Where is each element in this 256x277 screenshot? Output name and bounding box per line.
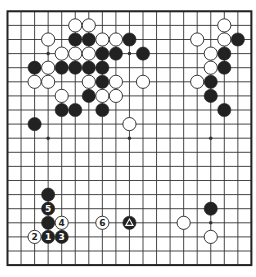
- white-stone-disc: [136, 75, 149, 88]
- black-stone[interactable]: [204, 202, 217, 215]
- black-stone[interactable]: [231, 33, 244, 46]
- black-stone[interactable]: [136, 47, 149, 60]
- black-stone[interactable]: [82, 61, 95, 74]
- white-stone-disc: [218, 33, 231, 46]
- white-stone[interactable]: [82, 47, 95, 60]
- white-stone[interactable]: [109, 75, 122, 88]
- white-stone-disc: [191, 75, 204, 88]
- white-stone[interactable]: [218, 33, 231, 46]
- black-stone-disc: [82, 89, 95, 102]
- star-point: [209, 221, 213, 225]
- white-stone[interactable]: [28, 75, 41, 88]
- white-stone-disc: [42, 75, 55, 88]
- black-stone-disc: [69, 33, 82, 46]
- black-stone[interactable]: [96, 47, 109, 60]
- black-stone[interactable]: [123, 33, 136, 46]
- white-stone[interactable]: [204, 47, 217, 60]
- white-stone[interactable]: [42, 33, 55, 46]
- black-stone[interactable]: [55, 61, 68, 74]
- white-stone[interactable]: [109, 89, 122, 102]
- black-stone-move-1[interactable]: 1: [42, 230, 55, 243]
- white-stone[interactable]: [218, 19, 231, 32]
- white-stone-disc: [82, 75, 95, 88]
- move-number-label: 2: [31, 232, 37, 242]
- black-stone[interactable]: [55, 103, 68, 116]
- white-stone-disc: [96, 33, 109, 46]
- black-stone[interactable]: [96, 61, 109, 74]
- star-point: [46, 52, 50, 56]
- star-point: [128, 136, 132, 140]
- move-number-label: 3: [59, 232, 65, 242]
- white-stone-disc: [55, 47, 68, 60]
- white-stone[interactable]: [69, 19, 82, 32]
- black-stone[interactable]: [204, 75, 217, 88]
- white-stone[interactable]: [204, 230, 217, 243]
- black-stone-disc: [42, 216, 55, 229]
- white-stone[interactable]: [96, 89, 109, 102]
- white-stone-disc: [204, 230, 217, 243]
- white-stone[interactable]: [42, 75, 55, 88]
- black-stone-disc: [55, 61, 68, 74]
- white-stone-move-6[interactable]: 6: [96, 216, 109, 229]
- black-stone[interactable]: [69, 33, 82, 46]
- black-stone-disc: [96, 47, 109, 60]
- black-stone-disc: [231, 33, 244, 46]
- black-stone[interactable]: [218, 103, 231, 116]
- white-stone[interactable]: [55, 89, 68, 102]
- black-stone[interactable]: [123, 216, 136, 229]
- white-stone[interactable]: [177, 216, 190, 229]
- black-stone-disc: [96, 61, 109, 74]
- black-stone-disc: [69, 61, 82, 74]
- black-stone-disc: [218, 47, 231, 60]
- black-stone[interactable]: [96, 103, 109, 116]
- white-stone[interactable]: [123, 118, 136, 131]
- black-stone[interactable]: [69, 103, 82, 116]
- move-number-label: 4: [59, 218, 65, 228]
- black-stone[interactable]: [109, 47, 122, 60]
- black-stone-disc: [204, 89, 217, 102]
- black-stone-disc: [82, 33, 95, 46]
- white-stone-disc: [109, 33, 122, 46]
- black-stone[interactable]: [82, 89, 95, 102]
- white-stone-disc: [191, 33, 204, 46]
- white-stone[interactable]: [82, 19, 95, 32]
- black-stone[interactable]: [69, 61, 82, 74]
- black-stone[interactable]: [96, 75, 109, 88]
- white-stone[interactable]: [109, 33, 122, 46]
- white-stone[interactable]: [191, 33, 204, 46]
- white-stone[interactable]: [42, 61, 55, 74]
- white-stone[interactable]: [204, 61, 217, 74]
- black-stone-disc: [28, 61, 41, 74]
- black-stone-disc: [82, 61, 95, 74]
- white-stone[interactable]: [136, 75, 149, 88]
- black-stone-disc: [109, 47, 122, 60]
- black-stone-move-3[interactable]: 3: [55, 230, 68, 243]
- black-stone[interactable]: [82, 33, 95, 46]
- white-stone-move-4[interactable]: 4: [55, 216, 68, 229]
- white-stone[interactable]: [96, 33, 109, 46]
- black-stone-disc: [96, 103, 109, 116]
- white-stone[interactable]: [55, 47, 68, 60]
- go-board: 546213: [0, 0, 256, 277]
- white-stone-disc: [69, 47, 82, 60]
- move-number-label: 5: [45, 204, 51, 214]
- white-stone-disc: [96, 89, 109, 102]
- black-stone[interactable]: [204, 89, 217, 102]
- black-stone[interactable]: [218, 61, 231, 74]
- white-stone-disc: [204, 61, 217, 74]
- black-stone[interactable]: [218, 47, 231, 60]
- black-stone-move-5[interactable]: 5: [42, 202, 55, 215]
- black-stone-disc: [28, 118, 41, 131]
- white-stone-move-2[interactable]: 2: [28, 230, 41, 243]
- white-stone[interactable]: [191, 75, 204, 88]
- black-stone[interactable]: [42, 188, 55, 201]
- black-stone[interactable]: [42, 216, 55, 229]
- white-stone[interactable]: [82, 75, 95, 88]
- black-stone-disc: [96, 75, 109, 88]
- black-stone-disc: [42, 188, 55, 201]
- black-stone-disc: [123, 33, 136, 46]
- black-stone[interactable]: [28, 61, 41, 74]
- black-stone-disc: [136, 47, 149, 60]
- white-stone[interactable]: [69, 47, 82, 60]
- black-stone[interactable]: [28, 118, 41, 131]
